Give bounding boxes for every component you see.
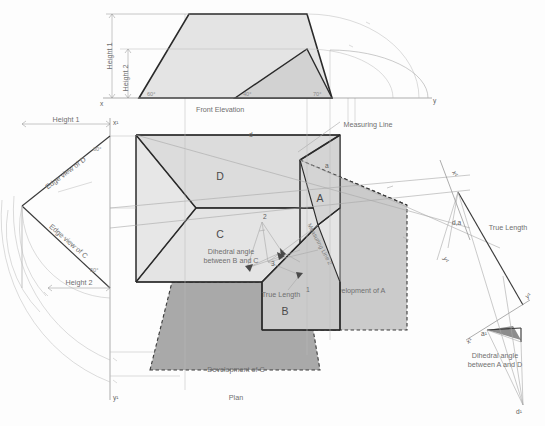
- edge-view-d-label: Edge view of D: [43, 155, 87, 191]
- axis-x-label: x: [100, 100, 104, 107]
- height2-label-left: Height 2: [66, 278, 93, 287]
- front-elevation-label: Front Elevation: [196, 105, 244, 114]
- plan-face-c-label: C: [216, 228, 224, 240]
- dihedral-bc-label-line1: Dihedral angle: [208, 247, 254, 256]
- plan-group: Development of C Development of A: [110, 120, 500, 402]
- plan-face-d-label: D: [216, 170, 224, 182]
- point-3-label: 3: [271, 260, 275, 267]
- angle-50-edge-c: 50°: [90, 267, 98, 273]
- angle-70-elevation: 70°: [313, 91, 321, 97]
- point-d-label: d: [249, 131, 253, 138]
- height2-label-elevation: Height 2: [121, 65, 130, 92]
- height1-label-left: Height 1: [53, 115, 80, 124]
- auxiliary-left-group: x¹ y¹ Height 1 Height 2 Edge view of D: [1, 115, 119, 402]
- auxiliary-right-true-length: x¹ y¹ d,a True Length: [437, 160, 527, 305]
- axis-x1-label-lower-right: x¹: [465, 336, 474, 345]
- drawing-canvas: Height 1 Height 2 60° 40° 70° Front Elev…: [0, 0, 545, 426]
- measuring-line-label-line1: Measuring Line: [343, 120, 392, 129]
- plan-face-a-label: A: [316, 192, 323, 204]
- axis-y-label: y: [433, 97, 437, 105]
- axis-y1-label-lower-right: y¹: [524, 291, 534, 301]
- height1-label-elevation: Height 1: [105, 43, 114, 70]
- angle-40-elevation: 40°: [243, 91, 251, 97]
- plan-label: Plan: [229, 393, 243, 402]
- angle-60-elevation: 60°: [147, 91, 155, 97]
- axis-x1-label-upper-right: x¹: [451, 170, 460, 178]
- angle-60-edge-d: 60°: [93, 146, 101, 152]
- axis-y1-label-left: y¹: [113, 394, 119, 402]
- dihedral-ad-label-line2: between A and D: [468, 360, 522, 369]
- point-da-label: d,a: [452, 219, 461, 226]
- point-d1-label: d¹: [516, 408, 523, 415]
- axis-y1-label-upper-right: y¹: [441, 256, 451, 265]
- edge-view-c-line: [22, 206, 110, 288]
- true-length-line: [458, 192, 523, 305]
- point-2-label: 2: [263, 213, 267, 220]
- technical-drawing-sheet: Height 1 Height 2 60° 40° 70° Front Elev…: [0, 0, 545, 426]
- point-1-label: 1: [306, 286, 310, 293]
- front-elevation-group: Height 1 Height 2 60° 40° 70° Front Elev…: [100, 14, 437, 122]
- development-of-c-label: Development of C: [207, 365, 265, 374]
- axis-x1-label-left: x¹: [113, 119, 119, 126]
- point-a-label: a: [325, 162, 329, 169]
- point-a1-label: a¹: [481, 330, 488, 337]
- dihedral-ad-label-line1: Dihedral angle: [472, 351, 518, 360]
- true-length-label-right: True Length: [489, 223, 528, 232]
- plan-face-b-label: B: [281, 305, 288, 317]
- dihedral-bc-label-line2: between B and C: [203, 256, 258, 265]
- true-length-label-plan: True Length: [262, 290, 301, 299]
